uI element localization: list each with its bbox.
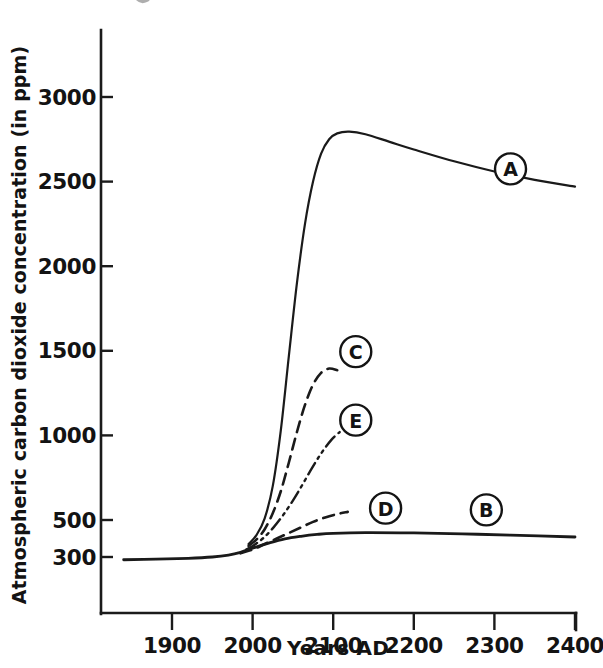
y-tick-label: 3000 [38,85,96,110]
y-tick-label: 2500 [38,169,96,194]
figure-container: 30050010001500200025003000 1900200021002… [0,0,603,668]
label-letter-b: B [479,499,493,521]
series-label-a: A [495,153,526,184]
y-tick-label: 300 [52,545,96,570]
series-label-d: D [370,493,401,524]
label-letter-e: E [349,410,362,432]
curve-c [249,369,338,546]
co2-projection-chart: 30050010001500200025003000 1900200021002… [0,0,603,668]
x-axis-title: Years AD [286,636,389,660]
x-tick-label: 1900 [143,633,201,658]
curve-a [249,132,575,544]
label-letter-d: D [378,498,394,520]
y-tick-label: 2000 [38,254,96,279]
x-tick-label: 2400 [546,633,603,658]
label-letter-c: C [349,341,363,363]
series-label-markers: ABCDE [340,153,526,525]
y-tick-label: 500 [52,508,96,533]
x-tick-label: 2000 [223,633,281,658]
x-tick-label: 2200 [385,633,443,658]
curve-b [124,533,575,560]
y-tick-label: 1000 [38,423,96,448]
series-label-b: B [471,494,502,525]
axes-group [101,30,576,630]
x-tick-label: 2300 [465,633,523,658]
scan-artifact [136,0,150,3]
label-letter-a: A [503,158,518,180]
y-tick-label: 1500 [38,338,96,363]
y-axis-title: Atmospheric carbon dioxide concentration… [8,46,30,605]
series-label-e: E [340,405,371,436]
series-label-c: C [340,336,371,367]
